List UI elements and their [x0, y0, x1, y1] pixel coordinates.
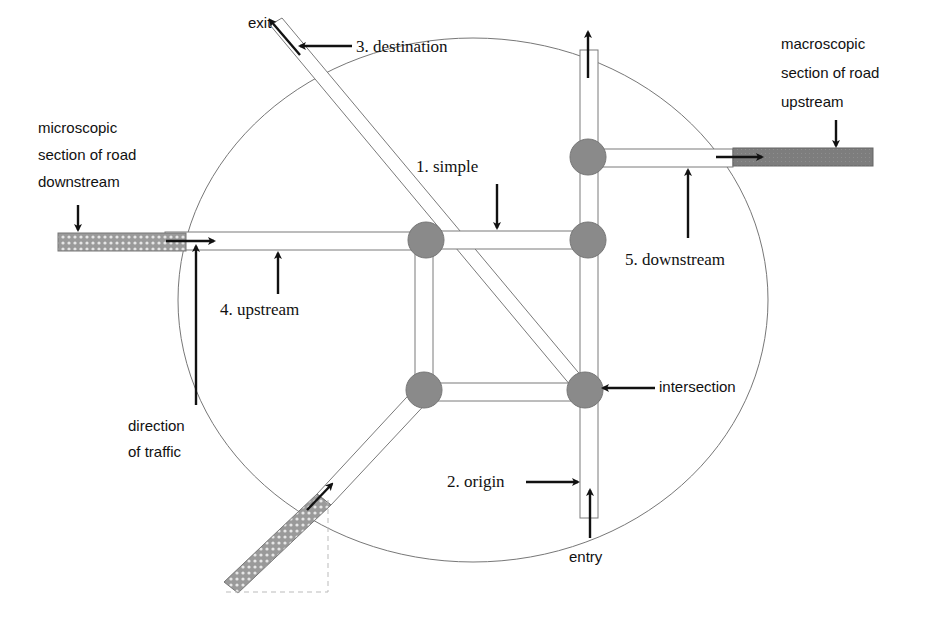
label-simple: 1. simple: [416, 157, 478, 176]
label-macro-2: section of road: [781, 64, 879, 81]
label-micro-2: section of road: [38, 146, 136, 163]
road-origin-vertical: [580, 50, 598, 518]
microscopic-section-entry: [224, 494, 331, 593]
intersection-node: [567, 372, 603, 408]
arrows: [78, 20, 836, 538]
label-exit: exit: [248, 14, 272, 31]
intersections: [406, 139, 606, 408]
road-network-diagram: exit 3. destination 1. simple 4. upstrea…: [0, 0, 933, 628]
label-micro-1: microscopic: [38, 119, 118, 136]
label-downstream: 5. downstream: [625, 250, 725, 269]
road-simple: [427, 231, 585, 249]
label-direction-2: of traffic: [128, 443, 182, 460]
intersection-node: [408, 222, 444, 258]
intersection-node: [570, 222, 606, 258]
label-entry: entry: [569, 548, 603, 565]
label-intersection: intersection: [659, 378, 736, 395]
road-vertical-left: [415, 240, 433, 390]
label-destination: 3. destination: [356, 37, 448, 56]
label-upstream: 4. upstream: [220, 300, 299, 319]
road-bottom-link: [424, 383, 584, 401]
intersection-node: [570, 139, 606, 175]
label-macro-3: upstream: [781, 93, 844, 110]
label-origin: 2. origin: [447, 472, 505, 491]
label-micro-3: downstream: [38, 173, 120, 190]
label-macro-1: macroscopic: [781, 35, 866, 52]
road-downstream: [588, 149, 733, 167]
intersection-node: [406, 372, 442, 408]
label-direction-1: direction: [128, 417, 185, 434]
